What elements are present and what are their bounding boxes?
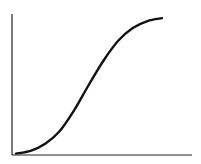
sigmoid-chart	[0, 0, 201, 164]
s-curve-line	[16, 18, 162, 153]
